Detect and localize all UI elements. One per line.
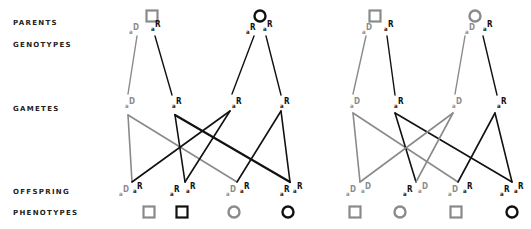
right-cross-parent-0-square-icon — [370, 11, 381, 22]
left-cross-offspring-3-allele-1-upper: R — [284, 185, 290, 194]
right-cross-segregation-line-0 — [353, 36, 366, 94]
left-cross-segregation-line-0 — [128, 36, 137, 94]
right-cross-fertilization-line-3-3 — [495, 113, 512, 182]
right-cross-parent-1-allele-2-upper: R — [487, 20, 493, 29]
left-cross-gamete-0-upper: D — [129, 97, 135, 106]
left-cross-fertilization-line-0-0 — [128, 115, 132, 182]
left-cross-offspring-2-allele-1-upper: D — [230, 185, 236, 194]
left-cross-parent-0-allele-1-upper: D — [133, 23, 139, 32]
right-cross-gamete-0-upper: D — [354, 97, 360, 106]
left-cross-fertilization-line-2-0 — [132, 111, 230, 182]
right-cross-parent-1-allele-1-upper: D — [469, 23, 475, 32]
left-cross-phenotype-3-circle-icon — [283, 207, 294, 218]
left-cross-parent-1-allele-2-upper: R — [267, 20, 273, 29]
left-cross-offspring-1-allele-1-upper: R — [174, 185, 180, 194]
left-cross-offspring-0-allele-1-upper: D — [123, 185, 129, 194]
right-cross-phenotype-1-circle-icon — [395, 207, 406, 218]
right-cross-gamete-3-upper: R — [501, 97, 507, 106]
right-cross-parent-0-allele-2-upper: R — [388, 20, 394, 29]
right-cross-phenotype-2-square-icon — [451, 207, 462, 218]
left-cross-segregation-line-1 — [155, 36, 172, 95]
right-cross-gamete-1-upper: R — [398, 97, 404, 106]
right-cross-phenotype-0-square-icon — [350, 207, 361, 218]
right-cross-offspring-2-allele-2-upper: R — [467, 182, 473, 191]
right-cross-offspring-3-allele-1-upper: R — [504, 185, 510, 194]
right-cross-segregation-line-1 — [387, 36, 395, 95]
left-cross-offspring-0-allele-2-upper: R — [137, 182, 143, 191]
right-cross-offspring-1-allele-1-upper: R — [407, 185, 413, 194]
left-cross-parent-0-allele-2-upper: R — [155, 20, 161, 29]
right-cross-parent-1-circle-icon — [470, 11, 481, 22]
right-cross-offspring-2-allele-1-upper: D — [452, 185, 458, 194]
right-cross-offspring-0-allele-2-upper: D — [365, 182, 371, 191]
left-cross-gamete-2-upper: R — [236, 97, 242, 106]
right-cross-fertilization-line-2-1 — [416, 113, 453, 182]
right-cross-fertilization-line-0-0 — [353, 113, 360, 182]
right-cross-offspring-0-allele-1-upper: D — [350, 185, 356, 194]
left-cross-offspring-1-allele-2-upper: R — [190, 182, 196, 191]
right-cross-segregation-line-3 — [483, 36, 497, 95]
right-cross-offspring-1-allele-2-upper: D — [422, 182, 428, 191]
left-cross-fertilization-line-3-3 — [281, 111, 290, 182]
left-cross-segregation-line-3 — [266, 36, 281, 95]
left-cross-segregation-line-2 — [232, 36, 254, 94]
left-cross-phenotype-0-square-icon — [144, 207, 155, 218]
left-cross-parent-1-allele-1-upper: R — [250, 23, 256, 32]
left-cross-offspring-3-allele-2-upper: R — [297, 182, 303, 191]
right-cross-gamete-2-upper: D — [456, 97, 462, 106]
right-cross-parent-0-allele-1-upper: D — [366, 23, 372, 32]
left-cross-parent-1-circle-icon — [255, 11, 266, 22]
left-cross-fertilization-line-3-2 — [237, 111, 281, 182]
inheritance-diagram: aDaRaRaRaDaRaRaRaDaRaRaRaDaRaRaRaDaRaDaR… — [0, 0, 531, 229]
right-cross-fertilization-line-3-2 — [458, 113, 495, 182]
left-cross-phenotype-2-circle-icon — [229, 207, 240, 218]
left-cross-gamete-1-upper: R — [176, 97, 182, 106]
left-cross-offspring-2-allele-2-upper: R — [244, 182, 250, 191]
left-cross-fertilization-line-2-1 — [185, 111, 230, 182]
left-cross-phenotype-1-square-icon — [177, 207, 188, 218]
right-cross-segregation-line-2 — [455, 36, 465, 94]
left-cross-gamete-3-upper: R — [284, 97, 290, 106]
right-cross-fertilization-line-2-0 — [360, 113, 453, 182]
right-cross-offspring-3-allele-2-upper: R — [518, 182, 524, 191]
right-cross-phenotype-3-circle-icon — [507, 207, 518, 218]
